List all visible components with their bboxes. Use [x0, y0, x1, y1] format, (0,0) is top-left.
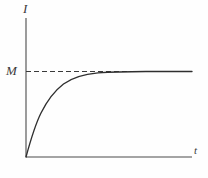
figure-caption: [0, 170, 208, 178]
plot-canvas: [0, 0, 208, 178]
y-axis-label: I: [23, 2, 27, 15]
asymptote-label: M: [6, 64, 17, 77]
figure-container: I M t: [0, 0, 208, 178]
growth-curve: [26, 72, 192, 158]
x-axis-label: t: [194, 145, 197, 156]
